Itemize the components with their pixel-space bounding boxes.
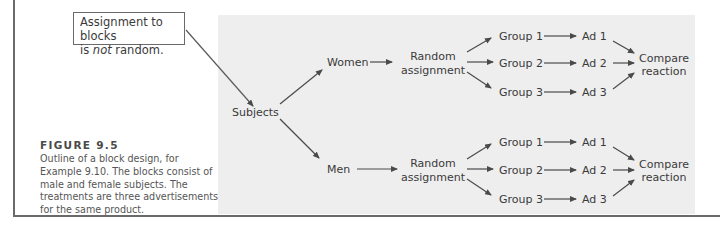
arrow-ad1-to-compare <box>613 147 634 160</box>
block-label-men: Men <box>327 163 350 176</box>
ad-3-label: Ad 3 <box>582 86 607 99</box>
arrow-random-to-group3 <box>467 72 491 88</box>
ad-2-label: Ad 2 <box>582 164 607 177</box>
random-assignment-line1: Random <box>410 157 456 170</box>
group-2-label: Group 2 <box>499 164 543 177</box>
compare-reaction-line1: Compare <box>639 52 689 65</box>
arrow-random-to-group1 <box>467 38 491 52</box>
ad-1-label: Ad 1 <box>582 136 607 149</box>
random-assignment-line2: assignment <box>401 171 466 184</box>
compare-reaction-line2: reaction <box>642 65 687 78</box>
annotation-pointer-arrow <box>186 30 253 106</box>
arrow-ad3-to-compare <box>613 180 634 196</box>
arrow-subjects-to-women <box>280 70 322 104</box>
ad-3-label: Ad 3 <box>582 193 607 206</box>
subjects-label: Subjects <box>232 106 279 119</box>
group-3-label: Group 3 <box>499 193 543 206</box>
block-design-diagram: Subjects Women Random assignment Group 1… <box>0 0 720 230</box>
random-assignment-line2: assignment <box>401 64 466 77</box>
block-men: Men Random assignment Group 1 Group 2 Gr… <box>327 136 689 206</box>
group-1-label: Group 1 <box>499 30 543 43</box>
ad-1-label: Ad 1 <box>582 30 607 43</box>
arrow-random-to-group3 <box>467 179 491 195</box>
random-assignment-line1: Random <box>410 50 456 63</box>
arrow-subjects-to-men <box>280 119 319 158</box>
block-label-women: Women <box>327 56 368 69</box>
group-3-label: Group 3 <box>499 86 543 99</box>
group-2-label: Group 2 <box>499 57 543 70</box>
ad-2-label: Ad 2 <box>582 57 607 70</box>
compare-reaction-line1: Compare <box>639 158 689 171</box>
arrow-ad3-to-compare <box>613 73 634 89</box>
compare-reaction-line2: reaction <box>642 171 687 184</box>
arrow-ad1-to-compare <box>613 41 634 53</box>
block-women: Women Random assignment Group 1 Group 2 … <box>327 30 689 99</box>
arrow-random-to-group1 <box>467 144 491 159</box>
group-1-label: Group 1 <box>499 136 543 149</box>
